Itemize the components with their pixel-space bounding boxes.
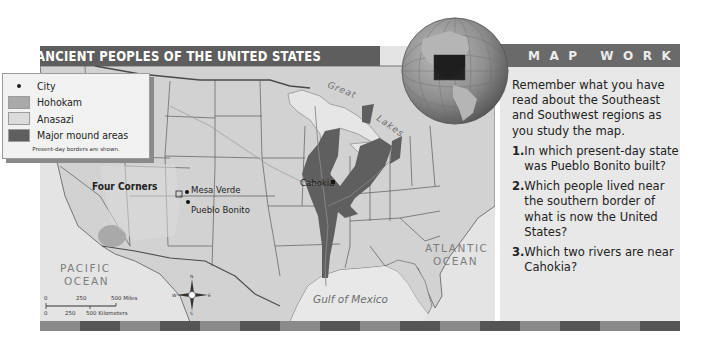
stripe-segment [480, 321, 520, 331]
mesa-verde-dot-icon [185, 190, 189, 194]
mound-swatch-icon [8, 129, 30, 142]
svg-text:E: E [208, 293, 211, 298]
question-number: 3. [512, 245, 524, 275]
question-text: Which two rivers are near Cahokia? [524, 245, 679, 275]
map-legend: City Hohokam Anasazi Major mound areas P… [2, 73, 150, 159]
scale-miles-0: 0 [44, 295, 48, 301]
scale-km-250: 250 [65, 310, 76, 316]
map-title: ANCIENT PEOPLES OF THE UNITED STATES [36, 48, 321, 64]
atlantic-ocean-label-2: OCEAN [433, 255, 478, 267]
decorative-stripe [40, 321, 680, 331]
globe-locator-icon [401, 17, 509, 125]
legend-label: City [37, 80, 56, 92]
stripe-segment [80, 321, 120, 331]
cahokia-label: Cahokia [300, 177, 334, 188]
map-work-intro: Remember what you have read about the So… [512, 78, 679, 139]
stripe-segment [640, 321, 680, 331]
scale-km-0: 0 [44, 310, 48, 316]
legend-item-anasazi: Anasazi [8, 111, 144, 127]
legend-label: Hohokam [37, 96, 82, 108]
mesa-verde-label: Mesa Verde [191, 184, 241, 195]
stripe-segment [440, 321, 480, 331]
pueblo-bonito-dot-icon [186, 200, 190, 204]
scale-km-500: 500 Kilometers [86, 310, 128, 316]
legend-label: Anasazi [37, 113, 74, 125]
stripe-segment [200, 321, 240, 331]
scale-miles-250: 250 [76, 295, 87, 301]
stripe-segment [360, 321, 400, 331]
svg-text:W: W [172, 293, 177, 298]
stripe-segment [120, 321, 160, 331]
question-2: 2. Which people lived near the southern … [512, 179, 679, 240]
stripe-segment [560, 321, 600, 331]
pueblo-bonito-label: Pueblo Bonito [191, 204, 250, 215]
stripe-segment [280, 321, 320, 331]
pacific-ocean-label-1: PACIFIC [60, 262, 111, 274]
atlantic-ocean-label-1: ATLANTIC [425, 242, 489, 254]
svg-text:S: S [190, 311, 193, 315]
compass-rose-icon: N S E W [172, 275, 212, 315]
question-1: 1. In which present-day state was Pueblo… [512, 144, 679, 174]
scale-miles-500: 500 Miles [111, 295, 137, 301]
stripe-segment [240, 321, 280, 331]
map-work-header: MAP WORK [528, 49, 680, 63]
city-dot-icon [8, 79, 30, 92]
svg-text:N: N [190, 275, 193, 279]
four-corners-label: Four Corners [92, 181, 157, 192]
question-3: 3. Which two rivers are near Cahokia? [512, 245, 679, 275]
gulf-of-mexico-label: Gulf of Mexico [313, 293, 388, 305]
question-number: 2. [512, 179, 524, 240]
legend-note: Present-day borders are shown. [8, 146, 144, 152]
stripe-segment [320, 321, 360, 331]
anasazi-swatch-icon [8, 112, 30, 125]
stripe-segment [600, 321, 640, 331]
question-number: 1. [512, 144, 524, 174]
stripe-segment [40, 321, 80, 331]
scale-bar: 0 250 500 Miles 0 250 500 Kilometers [44, 295, 144, 317]
hohokam-swatch-icon [8, 96, 30, 109]
stripe-segment [520, 321, 560, 331]
legend-item-city: City [8, 78, 144, 94]
stripe-segment [400, 321, 440, 331]
map-work-body: Remember what you have read about the So… [512, 78, 680, 275]
stripe-segment [160, 321, 200, 331]
pacific-ocean-label-2: OCEAN [64, 275, 109, 287]
legend-item-mounds: Major mound areas [8, 128, 144, 144]
legend-item-hohokam: Hohokam [8, 95, 144, 111]
question-text: Which people lived near the southern bor… [524, 179, 679, 240]
question-text: In which present-day state was Pueblo Bo… [524, 144, 679, 174]
legend-label: Major mound areas [37, 129, 128, 141]
